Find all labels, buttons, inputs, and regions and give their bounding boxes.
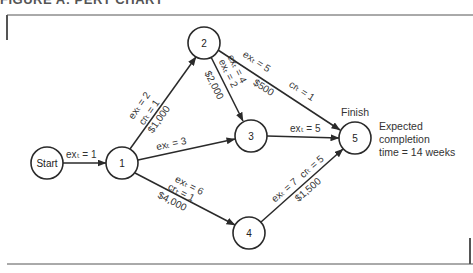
edge-3-5 [267,136,339,138]
svg-text:5: 5 [352,133,358,144]
completion-note-line2: completion [379,133,430,145]
completion-note-line1: Expected [379,120,423,132]
svg-text:3: 3 [248,131,254,142]
svg-text:2: 2 [201,38,207,49]
node-5: 5 [339,122,371,154]
node-3: 3 [235,120,267,152]
node-2: 2 [188,27,220,59]
pert-network-diagram: exₜ = 1 exₜ = 2 crₜ = 1 $1,000 exₜ = 3 e… [0,0,473,273]
edge-label-start-1: exₜ = 1 [66,149,97,160]
node-start: Start [31,147,63,179]
edge-label-2-5-duration: exₜ = 5 [241,48,273,74]
edge-4-5 [261,149,343,222]
node-4: 4 [233,217,265,249]
edge-label-2-5-crash: crₜ = 1 [287,78,317,103]
edge-label-2-5-cost: $500 [251,77,276,99]
edge-label-4-5-crash: crₜ = 5 [297,153,326,180]
svg-text:1: 1 [119,158,125,169]
svg-text:Start: Start [36,158,57,169]
completion-note-line3: time = 14 weeks [379,146,455,158]
edge-label-3-5-duration: exₜ = 5 [290,123,321,134]
svg-text:4: 4 [246,228,252,239]
node-1: 1 [106,147,138,179]
finish-label: Finish [341,106,369,118]
